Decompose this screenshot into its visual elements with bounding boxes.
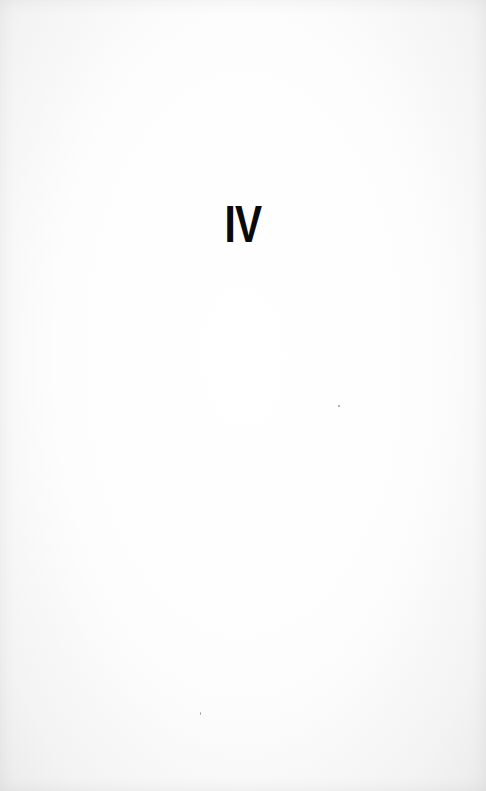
scan-speck xyxy=(338,405,340,407)
book-page: IV xyxy=(0,0,486,791)
part-number-heading: IV xyxy=(53,198,432,250)
scan-speck xyxy=(200,712,201,715)
